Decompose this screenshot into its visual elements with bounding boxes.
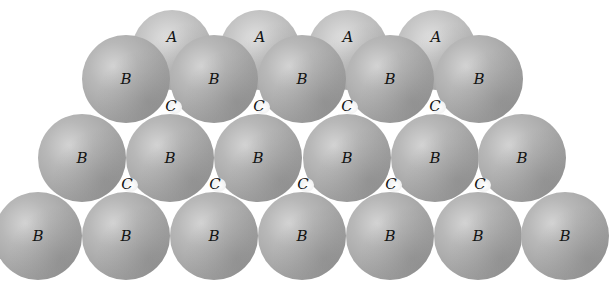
c-site-label: C xyxy=(474,177,485,192)
sphere-label-b: B xyxy=(76,151,87,166)
sphere-label-b: B xyxy=(429,151,440,166)
sphere-label-b: B xyxy=(208,72,219,87)
sphere-label-b: B xyxy=(252,151,263,166)
sphere-label-a: A xyxy=(431,30,442,45)
sphere-label-b: B xyxy=(164,151,175,166)
sphere-label-b: B xyxy=(473,72,484,87)
sphere-label-b: B xyxy=(32,229,43,244)
sphere-label-b: B xyxy=(384,72,395,87)
c-site-label: C xyxy=(165,99,176,114)
c-site-label: C xyxy=(209,177,220,192)
sphere-label-b: B xyxy=(120,72,131,87)
c-site-label: C xyxy=(297,177,308,192)
c-site-label: C xyxy=(385,177,396,192)
sphere-label-b: B xyxy=(208,229,219,244)
sphere-label-b: B xyxy=(341,151,352,166)
sphere-label-a: A xyxy=(255,30,266,45)
c-site-label: C xyxy=(429,99,440,114)
sphere-label-a: A xyxy=(343,30,354,45)
sphere-label-b: B xyxy=(472,229,483,244)
c-site-label: C xyxy=(253,99,264,114)
c-site-label: C xyxy=(341,99,352,114)
sphere-label-b: B xyxy=(384,229,395,244)
sphere-label-b: B xyxy=(516,151,527,166)
sphere-label-a: A xyxy=(167,30,178,45)
sphere-label-b: B xyxy=(120,229,131,244)
sphere-label-b: B xyxy=(296,229,307,244)
sphere-label-b: B xyxy=(559,229,570,244)
c-site-label: C xyxy=(121,177,132,192)
sphere-label-b: B xyxy=(296,72,307,87)
